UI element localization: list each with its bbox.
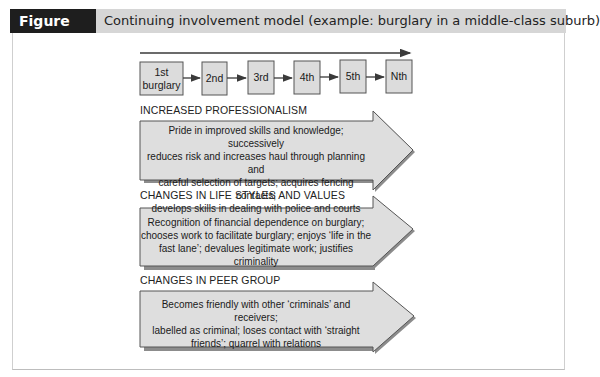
section-title-lifestyles: CHANGES IN LIFE STYLES AND VALUES [140,189,345,201]
stage-3: 3rd [248,61,274,94]
stage-5: 5th [340,60,366,93]
text-line: friends’; quarrel with relations [140,337,372,350]
section-text-professionalism: Pride in improved skills and knowledge; … [140,124,372,215]
text-line: chooses work to facilitate burglary; enj… [140,229,372,242]
stage-4: 4th [294,61,320,94]
text-line: develops skills in dealing with police a… [140,202,372,215]
stage-1-line2: burglary [143,79,181,91]
section-title-professionalism: INCREASED PROFESSIONALISM [140,104,307,116]
text-line: reduces risk and increases haul through … [140,150,372,176]
section-title-peer-group: CHANGES IN PEER GROUP [140,274,280,286]
section-text-peer-group: Becomes friendly with other ‘criminals’ … [140,298,372,350]
text-line: Recognition of financial dependence on b… [140,216,372,229]
stage-1-line1: 1st [154,66,168,78]
stage-6: Nth [386,60,412,93]
text-line: Pride in improved skills and knowledge; … [140,124,372,150]
section-text-lifestyles: Recognition of financial dependence on b… [140,216,372,268]
text-line: Becomes friendly with other ‘criminals’ … [140,298,372,324]
text-line: fast lane’; devalues legitimate work; ju… [140,242,372,268]
stage-2: 2nd [202,62,227,95]
text-line: labelled as criminal; loses contact with… [140,324,372,337]
stage-1: 1st burglary [140,62,183,95]
